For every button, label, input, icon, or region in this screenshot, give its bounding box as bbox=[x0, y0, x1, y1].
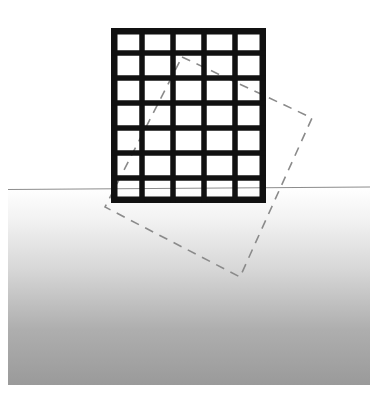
diagram-svg bbox=[0, 0, 377, 395]
ground-gradient bbox=[8, 188, 370, 385]
figure-canvas bbox=[0, 0, 377, 395]
